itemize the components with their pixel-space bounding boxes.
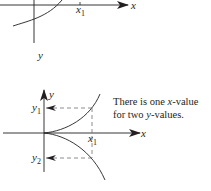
x1-label: x1 — [87, 132, 97, 147]
bottom-x-axis-label: x — [140, 127, 146, 139]
y1-label: y1 — [31, 101, 41, 116]
bottom-y-axis-label: y — [48, 88, 54, 100]
caption: There is one x-value for two y-values. — [113, 95, 211, 121]
y2-label: y2 — [31, 151, 41, 166]
top-curve — [13, 0, 62, 26]
caption-line-2: for two y-values. — [113, 108, 211, 121]
top-y-axis-label: y — [37, 49, 43, 61]
top-graph: x1 x y — [0, 0, 136, 61]
top-x-axis-label: x — [130, 0, 136, 11]
caption-line-1: There is one x-value — [113, 95, 211, 108]
